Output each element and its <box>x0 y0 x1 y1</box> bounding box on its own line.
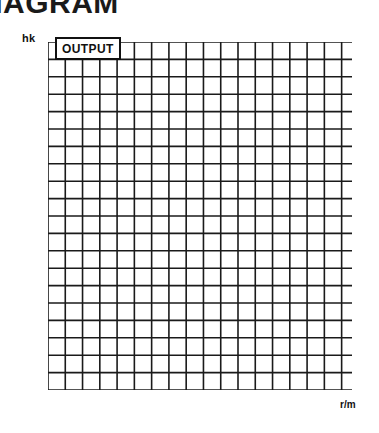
output-annotation-box: OUTPUT <box>55 37 121 60</box>
plot-area <box>48 42 352 390</box>
y-axis-tick-labels <box>4 0 38 433</box>
grid-minor <box>48 42 352 390</box>
output-annotation-label: OUTPUT <box>62 42 114 56</box>
chart-page: DIAGRAM hk OUTPUT r/m <box>0 0 379 433</box>
x-axis-tick-labels <box>0 398 379 420</box>
x-axis-unit-label: r/m <box>340 400 356 410</box>
chart-canvas <box>48 42 352 390</box>
